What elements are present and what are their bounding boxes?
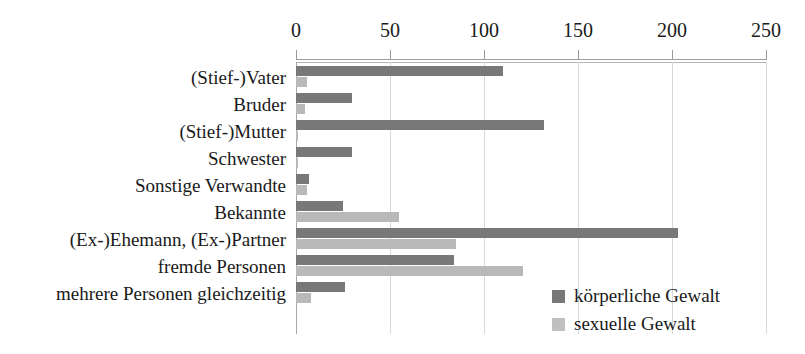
x-axis-line	[296, 59, 766, 60]
y-axis-category-label: mehrere Personen gleichzeitig	[56, 283, 286, 305]
x-tick-label: 0	[291, 18, 301, 42]
x-tick-label: 100	[469, 18, 499, 42]
x-tick-mark	[390, 50, 391, 60]
y-axis-category-label: Schwester	[208, 148, 286, 170]
bar-physical-violence	[296, 201, 343, 211]
bar-physical-violence	[296, 66, 503, 76]
bar-sexual-violence	[296, 131, 298, 141]
chart-root: 050100150200250 (Stief-)VaterBruder(Stie…	[0, 0, 805, 354]
chart-category-row: Sonstige Verwandte	[0, 172, 805, 199]
y-axis-category-label: Sonstige Verwandte	[135, 175, 286, 197]
chart-category-row: (Ex-)Ehemann, (Ex-)Partner	[0, 226, 805, 253]
x-tick-label: 200	[657, 18, 687, 42]
chart-legend: körperliche Gewalt sexuelle Gewalt	[552, 282, 802, 338]
bar-physical-violence	[296, 228, 678, 238]
y-axis-category-label: (Stief-)Mutter	[179, 121, 286, 143]
bar-sexual-violence	[296, 185, 307, 195]
chart-category-row: Schwester	[0, 145, 805, 172]
bar-sexual-violence	[296, 77, 307, 87]
bar-physical-violence	[296, 255, 454, 265]
x-axis-tick-labels: 050100150200250	[0, 18, 805, 48]
chart-category-row: (Stief-)Vater	[0, 64, 805, 91]
bar-physical-violence	[296, 93, 352, 103]
x-tick-mark	[672, 50, 673, 60]
chart-category-row: Bekannte	[0, 199, 805, 226]
bar-physical-violence	[296, 282, 345, 292]
bar-sexual-violence	[296, 104, 305, 114]
bar-sexual-violence	[296, 212, 399, 222]
legend-label-sexual: sexuelle Gewalt	[574, 313, 696, 335]
chart-category-row: Bruder	[0, 91, 805, 118]
x-tick-label: 150	[563, 18, 593, 42]
legend-swatch-physical-icon	[552, 290, 565, 303]
bar-physical-violence	[296, 120, 544, 130]
y-axis-category-label: Bruder	[233, 94, 286, 116]
bar-physical-violence	[296, 174, 309, 184]
bar-physical-violence	[296, 147, 352, 157]
chart-category-row: fremde Personen	[0, 253, 805, 280]
legend-label-physical: körperliche Gewalt	[574, 285, 720, 307]
x-tick-mark	[296, 50, 297, 60]
plot-top-border	[296, 62, 766, 63]
legend-item-sexual: sexuelle Gewalt	[552, 310, 802, 338]
bar-sexual-violence	[296, 293, 311, 303]
y-axis-category-label: (Stief-)Vater	[191, 67, 286, 89]
bar-sexual-violence	[296, 239, 456, 249]
bar-sexual-violence	[296, 266, 523, 276]
x-tick-label: 50	[380, 18, 400, 42]
y-axis-category-label: fremde Personen	[158, 256, 286, 278]
y-axis-category-label: (Ex-)Ehemann, (Ex-)Partner	[70, 229, 286, 251]
y-axis-category-label: Bekannte	[214, 202, 286, 224]
x-tick-mark	[578, 50, 579, 60]
legend-swatch-sexual-icon	[552, 318, 565, 331]
x-tick-mark	[484, 50, 485, 60]
bar-sexual-violence	[296, 158, 298, 168]
x-tick-label: 250	[751, 18, 781, 42]
chart-category-row: (Stief-)Mutter	[0, 118, 805, 145]
x-tick-mark	[766, 50, 767, 60]
legend-item-physical: körperliche Gewalt	[552, 282, 802, 310]
